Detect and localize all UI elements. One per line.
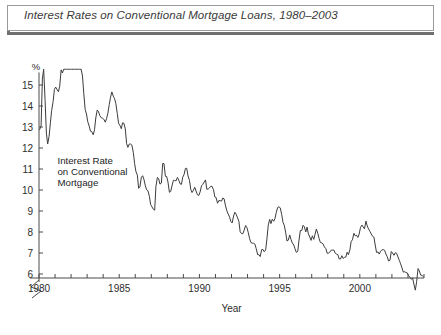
x-axis: 19801985199019952000 [28,274,424,294]
y-tick-label: 13 [22,122,34,133]
y-tick-label: 8 [27,227,33,238]
x-tick-label: 2000 [349,283,372,294]
plot-area: 6789101112131415 19801985199019952000 % … [0,0,441,335]
x-tick-label: 1985 [108,283,131,294]
x-tick-label: 1995 [269,283,292,294]
annotation-line-2: on Conventional [57,166,127,177]
y-axis-unit-label: % [32,61,41,72]
chart-figure: Interest Rates on Conventional Mortgage … [0,0,441,335]
y-tick-label: 10 [22,185,34,196]
y-tick-label: 11 [23,164,34,175]
y-tick-label: 12 [22,143,34,154]
x-tick-label: 1990 [188,283,211,294]
y-tick-label: 9 [27,206,33,217]
y-tick-label: 14 [22,101,34,112]
y-tick-label: 15 [22,80,34,91]
x-axis-title: Year [221,303,242,314]
y-axis: 6789101112131415 [22,72,43,298]
annotation-line-3: Mortgage [57,177,98,188]
annotation-line-1: Interest Rate [57,155,112,166]
y-tick-label: 7 [27,248,33,259]
x-tick-label: 1980 [28,283,51,294]
line-chart-svg: 6789101112131415 19801985199019952000 % … [0,0,441,335]
